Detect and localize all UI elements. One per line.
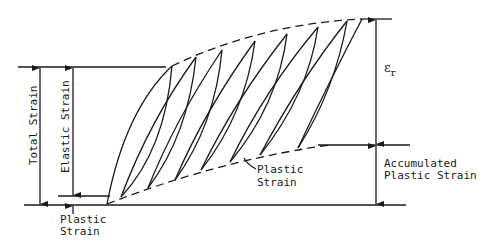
accumulated-plastic-strain-label-line2: Plastic Strain [384, 170, 477, 182]
total-strain-label: Total Strain [28, 86, 40, 165]
plastic-strain-curve-label-line2: Strain [257, 177, 297, 189]
plastic-strain-bottom-label-line2: Strain [60, 226, 100, 238]
ratcheting-strain-diagram: Total Strain Elastic Strain Plastic Stra… [0, 0, 480, 244]
epsilon-r-label: εr [384, 62, 396, 79]
diagram-graphics [0, 0, 480, 244]
elastic-strain-label: Elastic Strain [60, 80, 72, 173]
upper-dashed-envelope [172, 19, 362, 66]
plastic-strain-curve-label-line1: Plastic [257, 164, 303, 176]
